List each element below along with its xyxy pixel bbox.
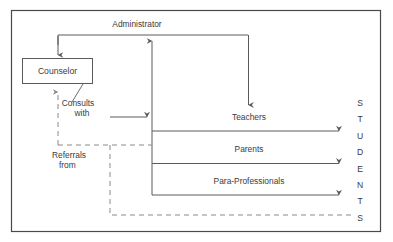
students-letter-d-3: D — [357, 147, 363, 157]
students-letter-t-1: T — [357, 114, 363, 124]
node-teachers-label: Teachers — [232, 112, 266, 122]
counselor-role-flow-diagram: Counselor Administrator Teachers Parents… — [0, 0, 393, 242]
node-parents-label: Parents — [235, 144, 264, 154]
students-letter-n-5: N — [357, 180, 363, 190]
edge-label-referrals-from-line2: from — [59, 160, 76, 170]
edge-label-consults-with-line1: Consults — [62, 98, 95, 108]
edge-label-referrals-from-line1: Referrals — [52, 150, 86, 160]
node-students-vertical-label: STUDENTS — [357, 98, 363, 223]
students-letter-t-6: T — [357, 196, 363, 206]
edge-label-consults-with-line2: with — [74, 108, 90, 118]
diagram-canvas: Counselor Administrator Teachers Parents… — [0, 0, 393, 242]
students-letter-e-4: E — [357, 164, 363, 174]
students-letter-s-0: S — [357, 98, 363, 108]
node-administrator-label: Administrator — [112, 19, 162, 29]
students-letter-u-2: U — [357, 131, 363, 141]
node-counselor-label: Counselor — [38, 66, 77, 76]
edge-administrator-horizontal-trunk — [58, 35, 248, 45]
node-para-professionals-label: Para-Professionals — [214, 176, 285, 186]
students-letter-s-7: S — [357, 213, 363, 223]
diagram-frame — [12, 11, 381, 232]
